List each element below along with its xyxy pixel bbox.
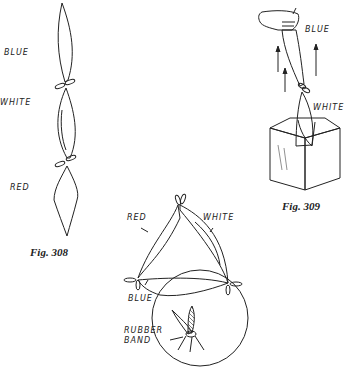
white-silk <box>58 88 75 158</box>
label-white-310: WHITE <box>203 213 234 222</box>
label-white: WHITE <box>0 98 31 107</box>
up-arrows <box>276 44 318 92</box>
label-white-309: WHITE <box>313 103 344 112</box>
label-blue: BLUE <box>4 48 29 57</box>
knot-bottom <box>55 154 77 167</box>
red-silk <box>54 166 78 236</box>
fig-310: RED WHITE BLUE RUBBER BAND <box>124 194 248 366</box>
label-blue-309: BLUE <box>305 25 330 34</box>
blue-silk <box>58 3 72 82</box>
rubber-band-detail <box>172 306 204 352</box>
caption-fig-309: Fig. 309 <box>281 200 320 212</box>
fig-308: BLUE WHITE RED Fig. 308 <box>0 3 78 258</box>
silks-illustration: BLUE WHITE RED Fig. 308 BLUE WHITE <box>0 0 349 377</box>
label-band: BAND <box>124 336 151 345</box>
label-red-310: RED <box>127 213 147 222</box>
fig-309: BLUE WHITE Fig. 309 <box>259 8 345 212</box>
label-blue-310: BLUE <box>128 294 153 303</box>
label-red: RED <box>10 183 30 192</box>
box <box>270 118 340 190</box>
knot-top <box>55 78 76 89</box>
caption-fig-308: Fig. 308 <box>29 246 68 258</box>
label-rubber: RUBBER <box>124 326 163 335</box>
magnifier-circle <box>152 270 248 366</box>
